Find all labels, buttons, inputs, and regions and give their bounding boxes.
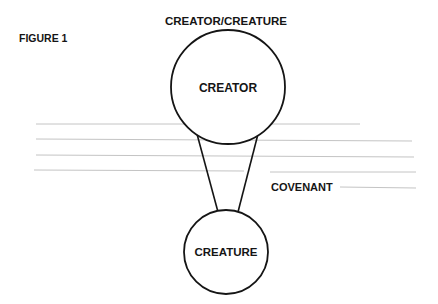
covenant-line [36, 155, 414, 157]
connector-left-line [197, 134, 218, 212]
creature-label: CREATURE [194, 246, 257, 258]
creator-label: CREATOR [199, 81, 258, 95]
diagram-title: CREATOR/CREATURE [165, 15, 287, 27]
creator-creature-diagram: FIGURE 1 CREATOR/CREATURE CREATOR CREATU… [0, 0, 438, 304]
connector-right-line [238, 134, 258, 212]
figure-label: FIGURE 1 [19, 32, 68, 44]
covenant-line [340, 187, 416, 188]
covenant-line [34, 170, 416, 172]
connector [197, 134, 258, 212]
covenant-label: COVENANT [271, 181, 333, 193]
